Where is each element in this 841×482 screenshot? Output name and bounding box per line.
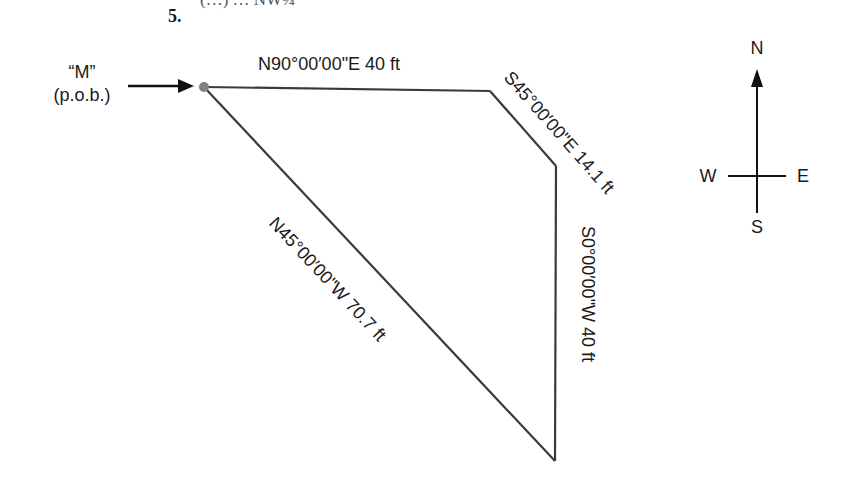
course-3-label: S0°00′00"W 40 ft [578, 226, 598, 362]
pob-label-m: “M” [69, 62, 96, 82]
traverse-diagram: “M” (p.o.b.) N90°00′00"E 40 ft S45°00′00… [0, 0, 841, 482]
course-3-line [555, 166, 556, 461]
pob-label-pob: (p.o.b.) [53, 85, 110, 105]
pob-point-icon [199, 82, 209, 92]
compass-west-label: W [700, 166, 717, 186]
traverse-lines [204, 87, 556, 461]
north-arrow-compass: N S W E [700, 38, 810, 237]
north-arrowhead-icon [751, 69, 763, 87]
course-1-line [204, 87, 490, 91]
course-2-label: S45°00′00"E 14.1 ft [500, 67, 618, 197]
compass-east-label: E [797, 166, 809, 186]
pob-arrow-icon [128, 79, 194, 93]
course-1-label: N90°00′00"E 40 ft [258, 54, 400, 74]
compass-north-label: N [751, 38, 764, 58]
course-4-label: N45°00′00"W 70.7 ft [265, 213, 390, 345]
course-4-line [204, 87, 555, 461]
compass-south-label: S [751, 217, 763, 237]
